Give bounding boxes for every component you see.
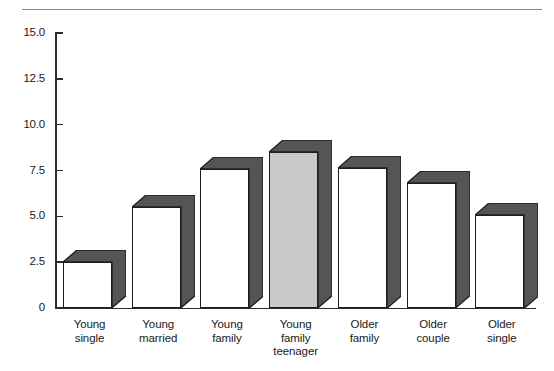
category-label-line: Older <box>397 318 470 332</box>
bar-5 <box>338 156 401 308</box>
category-label-line: family <box>259 332 332 346</box>
y-axis-tick <box>55 261 63 262</box>
bar-face-1 <box>63 262 112 308</box>
category-label-7: Oldersingle <box>465 318 538 345</box>
category-label-line: Young <box>259 318 332 332</box>
y-axis-tick <box>55 307 63 308</box>
y-axis-tick-label: 2.5 <box>0 256 45 268</box>
category-label-2: Youngmarried <box>122 318 195 345</box>
category-label-5: Olderfamily <box>328 318 401 345</box>
bar-face-4 <box>269 152 318 308</box>
category-label-line: single <box>53 332 126 346</box>
y-axis-tick <box>55 78 63 79</box>
category-label-line: single <box>465 332 538 346</box>
category-label-line: Young <box>122 318 195 332</box>
category-label-line: married <box>122 332 195 346</box>
bar-2 <box>132 195 195 308</box>
category-label-line: family <box>190 332 263 346</box>
category-label-line: couple <box>397 332 470 346</box>
bar-6 <box>407 171 470 308</box>
y-axis-tick <box>55 216 63 217</box>
category-label-line: Older <box>465 318 538 332</box>
category-label-line: Older <box>328 318 401 332</box>
bar-3 <box>200 157 263 308</box>
category-label-4: Youngfamilyteenager <box>259 318 332 359</box>
bar-7 <box>475 203 538 309</box>
bar-4 <box>269 140 332 308</box>
bar-face-5 <box>338 168 387 308</box>
category-label-line: Young <box>53 318 126 332</box>
category-label-line: family <box>328 332 401 346</box>
y-axis-tick-label: 12.5 <box>0 73 45 85</box>
y-axis-tick-label: 10.0 <box>0 119 45 131</box>
bar-face-6 <box>407 183 456 308</box>
category-label-line: Young <box>190 318 263 332</box>
bar-1 <box>63 250 126 308</box>
y-axis-tick-label: 7.5 <box>0 165 45 177</box>
bar-face-7 <box>475 215 524 309</box>
y-axis-tick-label: 5.0 <box>0 210 45 222</box>
bar-face-3 <box>200 169 249 308</box>
category-label-6: Oldercouple <box>397 318 470 345</box>
category-label-3: Youngfamily <box>190 318 263 345</box>
y-axis-tick-label: 0 <box>0 302 45 314</box>
y-axis-tick-label: 15.0 <box>0 27 45 39</box>
category-label-1: Youngsingle <box>53 318 126 345</box>
category-label-line: teenager <box>259 345 332 359</box>
bar-chart: 15.012.510.07.55.02.50 YoungsingleYoungm… <box>0 0 554 371</box>
y-axis-tick <box>55 32 63 33</box>
y-axis-tick <box>55 170 63 171</box>
y-axis-tick <box>55 124 63 125</box>
bar-face-2 <box>132 207 181 308</box>
